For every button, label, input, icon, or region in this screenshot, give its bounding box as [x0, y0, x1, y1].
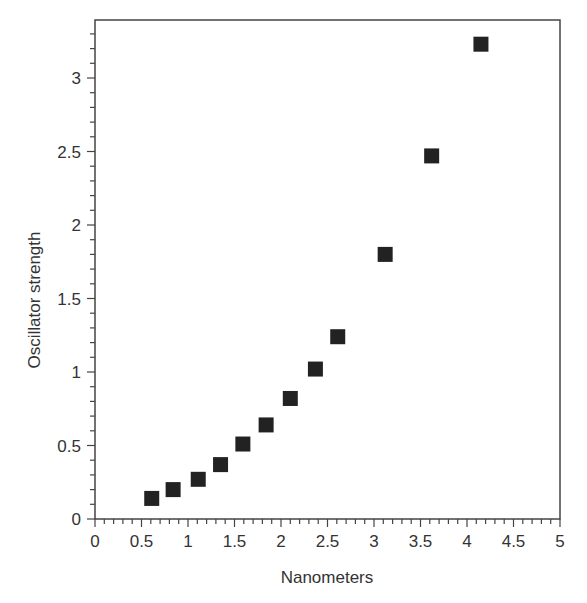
x-axis-ticks: 00.511.522.533.544.55: [90, 519, 564, 551]
data-point-marker: [330, 329, 345, 344]
y-tick-label: 2.5: [57, 143, 81, 162]
data-point-marker: [378, 247, 393, 262]
y-tick-label: 0: [72, 510, 81, 529]
y-tick-label: 1: [72, 363, 81, 382]
x-tick-label: 2: [276, 532, 285, 551]
y-tick-label: 3: [72, 69, 81, 88]
data-point-marker: [424, 148, 439, 163]
data-point-marker: [308, 362, 323, 377]
data-point-marker: [283, 391, 298, 406]
plot-frame: [95, 20, 560, 519]
x-tick-label: 5: [555, 532, 564, 551]
scatter-chart: 00.511.522.533.544.55 00.511.522.53 Nano…: [0, 0, 587, 603]
y-axis-title: Oscillator strength: [25, 232, 44, 369]
x-tick-label: 4: [462, 532, 471, 551]
x-tick-label: 4.5: [502, 532, 526, 551]
data-point-marker: [473, 37, 488, 52]
x-tick-label: 0: [90, 532, 99, 551]
y-tick-label: 0.5: [57, 437, 81, 456]
plot-border: [95, 20, 560, 519]
x-tick-label: 0.5: [130, 532, 154, 551]
x-tick-label: 3.5: [409, 532, 433, 551]
data-point-marker: [166, 482, 181, 497]
data-points: [144, 37, 488, 506]
y-tick-label: 1.5: [57, 290, 81, 309]
x-tick-label: 3: [369, 532, 378, 551]
x-tick-label: 2.5: [316, 532, 340, 551]
data-point-marker: [144, 491, 159, 506]
y-axis-ticks: 00.511.522.53: [57, 34, 95, 529]
x-tick-label: 1: [183, 532, 192, 551]
data-point-marker: [213, 457, 228, 472]
y-tick-label: 2: [72, 216, 81, 235]
x-axis-title: Nanometers: [281, 568, 374, 587]
x-tick-label: 1.5: [223, 532, 247, 551]
data-point-marker: [191, 472, 206, 487]
data-point-marker: [235, 437, 250, 452]
data-point-marker: [259, 417, 274, 432]
